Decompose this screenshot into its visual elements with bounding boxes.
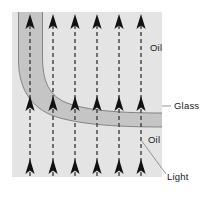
diagram-canvas: Oil Glass Oil Light <box>0 0 207 197</box>
label-oil-top: Oil <box>150 42 162 53</box>
label-oil-lower: Oil <box>148 134 160 145</box>
optics-diagram: Oil Glass Oil Light <box>0 0 207 197</box>
label-glass: Glass <box>174 100 199 111</box>
label-light: Light <box>167 171 189 182</box>
